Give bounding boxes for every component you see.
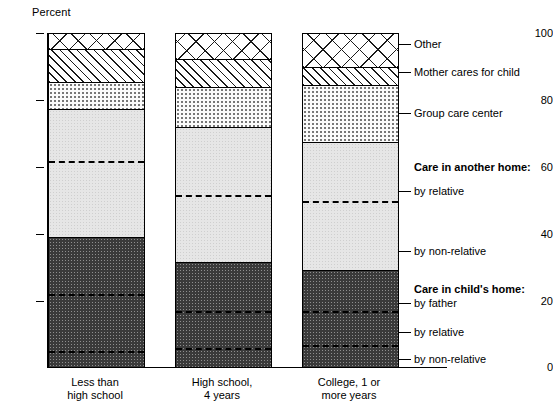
x-category-label-2-line1: High school, (152, 376, 292, 389)
divider-childs-home-by-father (303, 311, 398, 313)
label-childs-home-by-father: by father (414, 298, 457, 309)
leader-line-other (398, 44, 411, 45)
y-tick-label-20: 20 (527, 296, 553, 306)
bar-college-1-or-more-years[interactable] (302, 33, 399, 367)
x-category-label-2: High school, 4 years (152, 376, 292, 402)
leader-line-group-care-center (398, 113, 411, 114)
y-tick-mark-20 (36, 301, 44, 302)
divider-another-home-by-relative (303, 201, 398, 203)
label-care-in-childs-home-heading: Care in child's home: (414, 284, 525, 295)
segment-care-childs-home (176, 263, 271, 367)
label-other: Other (414, 39, 442, 50)
segment-care-another-home (303, 143, 398, 271)
label-childs-home-by-relative: by relative (414, 327, 464, 338)
segment-mother-cares-for-child (303, 68, 398, 86)
segment-mother-cares-for-child (176, 60, 271, 88)
leader-line-childs-home-by-relative (398, 332, 411, 333)
x-category-label-2-line2: 4 years (152, 389, 292, 402)
divider-another-home-by-relative (176, 195, 271, 197)
y-tick-label-60: 60 (527, 162, 553, 172)
segment-mother-cares-for-child (49, 50, 144, 83)
bar-less-than-high-school[interactable] (48, 33, 145, 367)
leader-line-childs-home-by-non-relative (398, 359, 411, 360)
divider-childs-home-by-relative (49, 351, 144, 353)
divider-childs-home-by-father (176, 311, 271, 313)
leader-line-another-home-by-non-relative (398, 251, 411, 252)
x-category-label-1-line2: high school (25, 389, 165, 402)
label-care-in-another-home-heading: Care in another home: (414, 162, 531, 173)
label-childs-home-by-non-relative: by non-relative (414, 354, 486, 365)
segment-care-childs-home (303, 271, 398, 367)
label-another-home-by-non-relative: by non-relative (414, 246, 486, 257)
y-tick-label-40: 40 (527, 229, 553, 239)
bar-high-school-4-years[interactable] (175, 33, 272, 367)
y-tick-label-80: 80 (527, 95, 553, 105)
leader-line-another-home-by-relative (398, 191, 411, 192)
divider-childs-home-by-father (49, 294, 144, 296)
segment-group-care-center (49, 83, 144, 110)
label-group-care-center: Group care center (414, 108, 503, 119)
segment-group-care-center (176, 88, 271, 128)
segment-other (176, 33, 271, 60)
label-mother-cares-for-child: Mother cares for child (414, 67, 520, 78)
x-category-label-3-line2: more years (279, 389, 419, 402)
x-category-label-1-line1: Less than (25, 376, 165, 389)
y-tick-mark-100 (36, 33, 44, 34)
x-axis-line (47, 367, 447, 368)
y-axis-title: Percent (32, 6, 71, 18)
x-category-label-1: Less than high school (25, 376, 165, 402)
y-tick-mark-60 (36, 167, 44, 168)
segment-care-childs-home (49, 238, 144, 367)
x-category-label-3: College, 1 or more years (279, 376, 419, 402)
segment-care-another-home (49, 110, 144, 238)
x-category-label-3-line1: College, 1 or (279, 376, 419, 389)
y-tick-mark-40 (36, 234, 44, 235)
divider-childs-home-by-relative (176, 348, 271, 350)
label-another-home-by-relative: by relative (414, 186, 464, 197)
divider-childs-home-by-relative (303, 345, 398, 347)
y-tick-label-100: 100 (527, 28, 553, 38)
segment-other (303, 33, 398, 68)
segment-other (49, 33, 144, 50)
stacked-bar-chart: Percent 100 80 60 40 20 0 (0, 0, 553, 415)
divider-another-home-by-relative (49, 161, 144, 163)
leader-line-childs-home-by-father (398, 303, 411, 304)
leader-line-mother-cares-for-child (398, 72, 411, 73)
y-tick-mark-80 (36, 100, 44, 101)
segment-care-another-home (176, 128, 271, 263)
y-tick-label-0: 0 (527, 362, 553, 372)
segment-group-care-center (303, 86, 398, 143)
